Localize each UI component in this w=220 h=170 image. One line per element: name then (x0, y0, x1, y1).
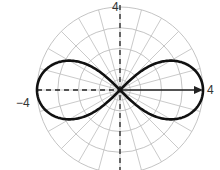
tick-label-right: 4 (207, 84, 214, 96)
tick-label-top: 4 (112, 1, 119, 13)
polar-plot (0, 0, 220, 170)
tick-label-left: −4 (16, 97, 30, 109)
